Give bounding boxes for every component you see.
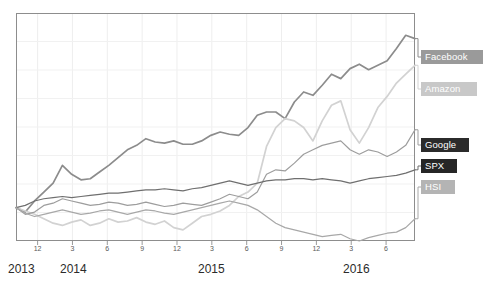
legend-item-spx[interactable]: SPX: [421, 159, 457, 173]
line-chart: FacebookAmazonGoogleSPXHSI 1236912369123…: [0, 0, 488, 296]
legend-item-facebook[interactable]: Facebook: [421, 50, 483, 64]
series-line-google: [16, 130, 415, 215]
x-axis-tick-label: 3: [339, 245, 363, 252]
grid-lines: [16, 13, 415, 241]
legend-item-amazon[interactable]: Amazon: [421, 82, 477, 96]
x-axis-tick-label: 12: [26, 245, 50, 252]
x-axis-tick-label: 6: [374, 245, 398, 252]
series-line-facebook: [16, 35, 415, 212]
series-lines: [16, 35, 415, 241]
x-axis-year-label: 2014: [60, 262, 87, 276]
legend-item-google[interactable]: Google: [421, 138, 469, 152]
x-axis-year-label: 2016: [343, 262, 370, 276]
legend-item-label: Amazon: [425, 83, 460, 94]
x-axis-tick-label: 6: [95, 245, 119, 252]
x-axis-year-label: 2015: [198, 262, 225, 276]
x-axis-year-label: 2013: [8, 262, 35, 276]
x-axis-tick-label: 12: [304, 245, 328, 252]
legend-item-label: Google: [425, 139, 456, 150]
x-axis-tick-label: 9: [130, 245, 154, 252]
legend-item-label: HSI: [425, 181, 441, 192]
legend-item-label: SPX: [425, 160, 444, 171]
x-axis-tick-label: 12: [165, 245, 189, 252]
legend-item-label: Facebook: [425, 51, 468, 62]
series-line-amazon: [16, 65, 415, 230]
x-axis-tick-label: 9: [270, 245, 294, 252]
x-axis-tick-label: 3: [200, 245, 224, 252]
x-axis-tick-label: 6: [235, 245, 259, 252]
x-axis-tick-label: 3: [60, 245, 84, 252]
legend-item-hsi[interactable]: HSI: [421, 180, 455, 194]
